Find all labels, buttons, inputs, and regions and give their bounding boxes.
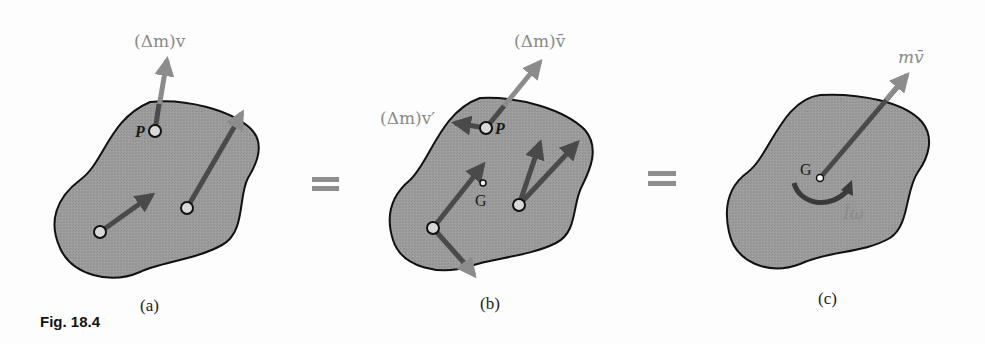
label-momentum-vprime-b: (Δm)v′ <box>380 108 435 128</box>
mass-center-g-b <box>480 180 486 186</box>
sublabel-c: (c) <box>818 289 837 309</box>
label-g-c: G <box>800 161 812 179</box>
particle-2 <box>181 202 193 214</box>
label-g-b: G <box>475 192 487 210</box>
particle-1 <box>94 226 106 238</box>
rigid-body-c <box>727 95 929 269</box>
panel-b <box>390 62 593 275</box>
particle-2-b <box>513 199 525 211</box>
label-point-p-a: P <box>135 123 145 141</box>
label-momentum-v-a: (Δm)v <box>134 31 185 51</box>
equals-sign-2 <box>648 171 676 186</box>
panel-c <box>727 75 929 268</box>
label-momentum-vbar-b: (Δm)v̄ <box>514 31 565 51</box>
label-linear-momentum-c: mv̄ <box>898 47 924 67</box>
equals-sign-1 <box>312 177 339 191</box>
mass-center-g-c <box>817 175 824 182</box>
diagram-svg <box>0 0 985 344</box>
particle-1-b <box>427 222 439 234</box>
sublabel-b: (b) <box>480 294 500 314</box>
figure-caption: Fig. 18.4 <box>40 313 100 330</box>
particle-p-b <box>480 122 492 134</box>
label-text: (Δm)v <box>134 31 185 51</box>
label-point-p-b: P <box>495 120 505 138</box>
sublabel-a: (a) <box>140 296 159 316</box>
label-angular-momentum-c: Īω <box>843 203 864 223</box>
figure-18-4: (Δm)v P (a) Fig. 18.4 (Δm)v̄ (Δm)v′ P G … <box>0 0 985 344</box>
panel-a <box>54 60 258 278</box>
particle-p <box>149 125 161 137</box>
